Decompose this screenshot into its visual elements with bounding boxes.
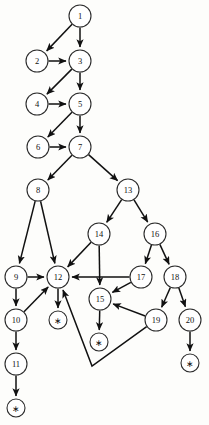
node-label: 1 xyxy=(78,11,82,21)
graph-terminal-node-t20[interactable]: ∗ xyxy=(181,354,199,372)
node-label: 18 xyxy=(171,272,180,282)
graph-node-4[interactable]: 4 xyxy=(26,93,48,115)
graph-node-18[interactable]: 18 xyxy=(164,266,186,288)
node-label: 7 xyxy=(78,142,82,152)
graph-node-1[interactable]: 1 xyxy=(69,5,91,27)
node-label: 6 xyxy=(36,142,40,152)
graph-node-14[interactable]: 14 xyxy=(88,223,110,245)
node-label: 16 xyxy=(151,229,160,239)
graph-edge-n8-to-n9 xyxy=(19,201,35,263)
node-label: 10 xyxy=(12,315,21,325)
graph-edge-n16-to-n18 xyxy=(160,244,169,264)
graph-edge-n3-to-n4 xyxy=(47,69,72,94)
graph-node-3[interactable]: 3 xyxy=(69,50,91,72)
graph-node-5[interactable]: 5 xyxy=(69,93,91,115)
graph-edge-n16-to-n17 xyxy=(145,245,151,264)
node-label: 5 xyxy=(78,99,82,109)
graph-node-2[interactable]: 2 xyxy=(26,50,48,72)
graph-node-13[interactable]: 13 xyxy=(117,179,139,201)
node-label: 12 xyxy=(54,272,63,282)
graph-edge-n13-to-n14 xyxy=(107,200,122,223)
graph-node-6[interactable]: 6 xyxy=(27,136,49,158)
node-label: 8 xyxy=(36,185,40,195)
graph-canvas: 1234567813141691217181510192011∗∗∗∗ xyxy=(0,0,209,425)
node-label: 15 xyxy=(96,294,105,304)
graph-node-20[interactable]: 20 xyxy=(179,309,201,331)
graph-terminal-node-t11[interactable]: ∗ xyxy=(7,399,25,417)
node-label: ∗ xyxy=(95,338,103,348)
graph-node-19[interactable]: 19 xyxy=(145,309,167,331)
graph-node-8[interactable]: 8 xyxy=(27,179,49,201)
node-label: ∗ xyxy=(186,359,194,369)
node-label: 9 xyxy=(14,272,18,282)
graph-node-9[interactable]: 9 xyxy=(5,266,27,288)
node-label: 20 xyxy=(186,315,195,325)
graph-edge-n8-to-n12 xyxy=(41,201,55,263)
graph-node-16[interactable]: 16 xyxy=(144,223,166,245)
node-label: ∗ xyxy=(54,316,62,326)
graph-terminal-node-t12[interactable]: ∗ xyxy=(49,311,67,329)
node-layer: 1234567813141691217181510192011∗∗∗∗ xyxy=(5,5,201,417)
graph-edge-n7-to-n8 xyxy=(48,155,72,180)
graph-node-11[interactable]: 11 xyxy=(5,353,27,375)
graph-edge-n5-to-n6 xyxy=(48,112,72,137)
graph-svg: 1234567813141691217181510192011∗∗∗∗ xyxy=(0,0,209,425)
graph-edge-n10-to-n12 xyxy=(24,287,48,312)
node-label: 11 xyxy=(12,359,20,369)
graph-edge-n14-to-n12 xyxy=(68,242,91,267)
graph-edge-n17-to-n15 xyxy=(112,282,131,292)
node-label: 19 xyxy=(152,315,161,325)
node-label: 2 xyxy=(35,56,39,66)
graph-edge-n18-to-n19 xyxy=(162,288,171,308)
graph-terminal-node-t15[interactable]: ∗ xyxy=(90,333,108,351)
graph-edge-n1-to-n2 xyxy=(47,24,72,51)
graph-edge-n7-to-n13 xyxy=(89,155,118,181)
node-label: 13 xyxy=(124,185,133,195)
graph-edge-n14-to-n15 xyxy=(99,246,100,286)
graph-node-12[interactable]: 12 xyxy=(47,266,69,288)
node-label: ∗ xyxy=(12,404,20,414)
graph-edge-n13-to-n16 xyxy=(134,200,148,222)
node-label: 17 xyxy=(137,272,146,282)
graph-edge-n19-to-n15 xyxy=(113,304,145,316)
graph-node-10[interactable]: 10 xyxy=(5,309,27,331)
graph-edge-n18-to-n20 xyxy=(179,288,186,307)
graph-node-15[interactable]: 15 xyxy=(89,288,111,310)
node-label: 14 xyxy=(95,229,104,239)
node-label: 3 xyxy=(78,56,82,66)
graph-node-7[interactable]: 7 xyxy=(69,136,91,158)
graph-node-17[interactable]: 17 xyxy=(130,266,152,288)
